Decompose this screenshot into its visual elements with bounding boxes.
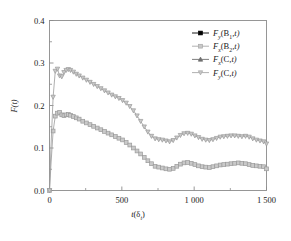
legend-item-2	[192, 57, 209, 61]
data-point	[211, 165, 215, 169]
legend-label-2: Fx(C,t)	[212, 54, 237, 66]
series-line	[50, 69, 267, 191]
y-axis-title: F(t)	[9, 99, 19, 113]
legend-item-3	[192, 71, 209, 75]
data-point	[222, 163, 226, 167]
data-point	[265, 167, 269, 171]
data-point	[132, 146, 136, 150]
data-point	[146, 159, 150, 163]
data-point	[207, 166, 211, 170]
data-point	[95, 126, 99, 130]
x-tick-label: 500	[115, 195, 128, 205]
data-point	[164, 167, 168, 171]
data-point	[193, 163, 197, 167]
data-point	[254, 164, 258, 168]
data-point	[153, 164, 157, 168]
y-tick-label: 0.1	[34, 143, 45, 153]
y-tick-label: 0.2	[34, 101, 45, 111]
series-Fy(C,t)	[47, 67, 268, 193]
data-point	[92, 124, 96, 128]
data-point	[182, 161, 186, 165]
data-point	[117, 136, 121, 140]
data-point	[99, 128, 103, 132]
data-point	[167, 140, 171, 144]
figure-container: 0.00.10.20.30.405001 0001 500t(δt)F(t)Fy…	[0, 0, 291, 241]
data-point	[264, 142, 268, 146]
legend-label-0: Fy(B1,t)	[212, 28, 240, 40]
data-point	[77, 117, 81, 121]
data-point	[168, 167, 172, 171]
legend-item-0	[192, 31, 209, 35]
x-axis-title: t(δt)	[131, 209, 145, 221]
data-point	[186, 161, 190, 165]
data-point	[258, 164, 262, 168]
data-point	[157, 165, 161, 169]
x-tick-label: 0	[47, 195, 51, 205]
data-point	[251, 164, 255, 168]
data-point	[103, 130, 107, 134]
data-point	[81, 119, 85, 123]
data-point	[204, 165, 208, 169]
legend-label-1: Fx(B2,t)	[212, 41, 240, 53]
data-point	[175, 164, 179, 168]
chart-canvas: 0.00.10.20.30.405001 0001 500t(δt)F(t)Fy…	[0, 0, 291, 241]
series-line	[50, 112, 267, 190]
data-point	[124, 141, 128, 145]
data-point	[150, 162, 154, 166]
data-point	[139, 152, 143, 156]
data-point	[240, 161, 244, 165]
data-point	[247, 163, 251, 167]
data-point	[229, 162, 233, 166]
data-point	[135, 149, 139, 153]
data-point	[199, 44, 203, 48]
data-point	[244, 162, 248, 166]
data-point	[207, 139, 211, 143]
data-point	[226, 162, 230, 166]
x-tick-label: 1 000	[185, 195, 204, 205]
series-Fx(B2,t)	[48, 110, 269, 192]
data-point	[189, 161, 193, 165]
x-tick-label: 1 500	[257, 195, 276, 205]
data-point	[233, 161, 237, 165]
y-tick-label: 0.0	[34, 186, 45, 196]
data-point	[179, 162, 183, 166]
data-point	[113, 135, 117, 139]
data-point	[218, 163, 222, 167]
y-tick-label: 0.4	[34, 16, 45, 26]
data-point	[110, 133, 114, 137]
data-point	[128, 143, 132, 147]
data-point	[84, 121, 88, 125]
data-point	[236, 161, 240, 165]
data-point	[88, 123, 92, 127]
data-point	[160, 166, 164, 170]
data-point	[121, 138, 125, 142]
legend-label-3: Fy(C,t)	[212, 68, 237, 80]
data-point	[200, 165, 204, 169]
data-point	[171, 167, 175, 171]
data-point	[240, 135, 244, 139]
y-tick-label: 0.3	[34, 58, 45, 68]
legend-item-1	[192, 44, 209, 48]
data-point	[142, 155, 146, 159]
data-point	[106, 131, 110, 135]
data-point	[51, 95, 55, 99]
data-point	[215, 164, 219, 168]
data-point	[199, 31, 203, 35]
data-point	[197, 164, 201, 168]
